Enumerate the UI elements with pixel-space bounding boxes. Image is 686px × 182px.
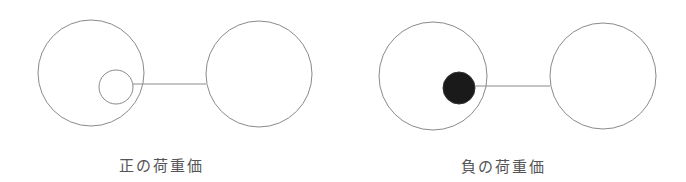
negative-weight-label: 負の荷重価 (461, 155, 546, 176)
inner-circle-filled (443, 72, 475, 104)
outer-circle-right (206, 21, 312, 127)
outer-circle-left (38, 20, 144, 126)
positive-weight-panel (38, 20, 312, 127)
negative-weight-panel (379, 22, 656, 130)
positive-weight-label: 正の荷重価 (119, 154, 204, 175)
diagram-canvas (0, 0, 686, 182)
outer-circle-left (379, 22, 487, 130)
outer-circle-right (550, 23, 656, 129)
inner-circle-open (99, 70, 133, 104)
